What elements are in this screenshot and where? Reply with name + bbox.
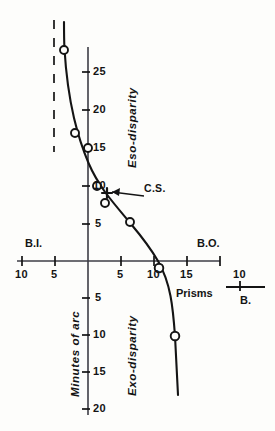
eso-disparity-label: Eso-disparity [127, 87, 139, 168]
y-axis-lower-ticks [82, 298, 90, 409]
y-tick-label-15: 15 [93, 142, 106, 153]
x-tick-label-bo-10: 10 [147, 269, 160, 280]
y-tick-label-25: 25 [93, 66, 106, 77]
y-tick-label-5: 5 [95, 218, 102, 229]
y-tick-label-20: 20 [93, 104, 106, 115]
y-tick-label-10: 10 [93, 180, 106, 191]
data-point [60, 46, 68, 54]
x-axis-title: Prisms [176, 288, 213, 299]
centre-of-symmetry-arrow [112, 188, 144, 196]
data-point [101, 199, 109, 207]
auxiliary-scale-sublabel: B. [240, 295, 251, 306]
x-axis-right-region-label: B.O. [197, 238, 220, 249]
data-point [171, 332, 180, 341]
y-tick-label-minus20: 20 [93, 403, 106, 414]
x-axis-left-region-label: B.I. [25, 238, 42, 249]
y-tick-label-minus10: 10 [93, 329, 106, 340]
centre-of-symmetry-label: C.S. [144, 183, 166, 194]
auxiliary-scale-bar [226, 281, 265, 291]
x-tick-label-bo-5: 5 [117, 269, 124, 280]
y-tick-label-minus5: 5 [95, 292, 102, 303]
data-point [126, 218, 134, 226]
y-axis-title: Minutes of arc [70, 311, 82, 397]
y-tick-label-minus15: 15 [93, 366, 106, 377]
exo-disparity-label: Exo-disparity [127, 315, 139, 396]
auxiliary-scale-label: 10 [233, 269, 246, 280]
data-point [84, 144, 92, 152]
data-point [71, 129, 79, 137]
x-tick-label-bi-5: 5 [51, 269, 58, 280]
x-tick-label-bi-10: 10 [15, 269, 28, 280]
x-tick-label-bo-15: 15 [180, 269, 193, 280]
